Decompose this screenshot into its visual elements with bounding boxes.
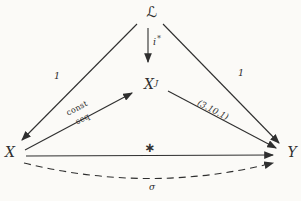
node-script-X: X (5, 145, 15, 159)
label-star: ∗ (145, 141, 156, 154)
arrow-L-to-Y (163, 24, 279, 143)
node-script-Y: Y (287, 145, 296, 159)
arrow-X-to-Y (26, 155, 273, 156)
label-i-star-superscript: * (157, 34, 161, 43)
commutative-diagram: ℒ XJ X Y i* 1 1 const seq (3.10.1) ∗ σ (0, 0, 301, 201)
label-left-one: 1 (54, 71, 60, 81)
node-script-L: ℒ (147, 5, 158, 20)
label-right-one: 1 (238, 68, 244, 78)
label-i-star-base: i (153, 36, 156, 47)
diagram-canvas (0, 0, 301, 201)
node-X-power-J: XJ (144, 77, 158, 91)
node-X-power-J-base: X (144, 76, 154, 92)
arrow-sigma-dashed (24, 163, 273, 179)
label-i-star: i* (153, 35, 161, 47)
node-X-power-J-superscript: J (155, 78, 158, 87)
label-sigma: σ (149, 183, 155, 192)
